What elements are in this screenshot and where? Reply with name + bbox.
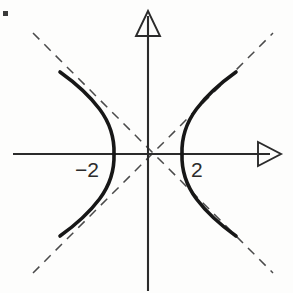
x-tick-label-2: 2 bbox=[191, 158, 203, 181]
hyperbola-right-branch-upper bbox=[182, 72, 236, 154]
x-tick-label-minus-2: −2 bbox=[75, 158, 99, 181]
scan-speck-artifact bbox=[3, 11, 8, 16]
hyperbola-left-branch-upper bbox=[60, 72, 114, 154]
hyperbola-figure: −2 2 bbox=[0, 0, 293, 293]
figure-canvas: −2 2 bbox=[0, 0, 293, 293]
